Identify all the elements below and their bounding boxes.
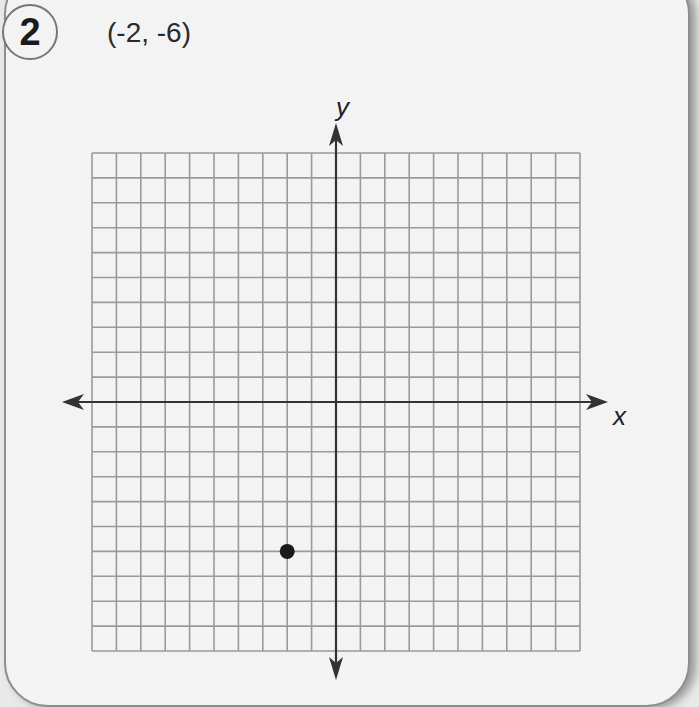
x-axis-label: x: [613, 401, 626, 432]
plotted-point: [280, 544, 295, 559]
y-axis-label: y: [336, 92, 349, 123]
